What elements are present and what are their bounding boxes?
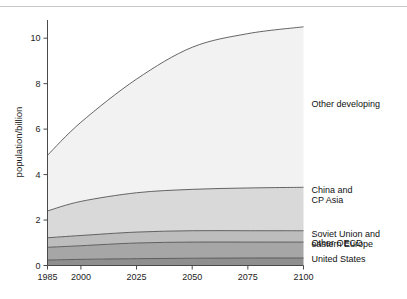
y-tick-label: 8 [35, 79, 40, 89]
stacked-area-chart: 1086420 198520002025205020752100 populat… [0, 0, 407, 299]
x-tick-label: 2100 [293, 272, 313, 282]
x-tick-label: 2075 [238, 272, 258, 282]
chart-page: 1086420 198520002025205020752100 populat… [0, 0, 407, 299]
x-tick-label: 2025 [127, 272, 147, 282]
y-tick-label: 10 [30, 33, 40, 43]
y-tick-label: 6 [35, 124, 40, 134]
chart-legend: Other developingChina andCP AsiaSoviet U… [312, 99, 381, 264]
area-bands [48, 27, 304, 266]
y-axis-title: population/billion [13, 107, 24, 178]
x-tick-label: 2050 [182, 272, 202, 282]
legend-label: CP Asia [312, 195, 344, 205]
area-band [48, 27, 304, 211]
y-tick-label: 4 [35, 170, 40, 180]
x-axis-ticks: 198520002025205020752100 [37, 266, 313, 282]
legend-label: Other OECD [312, 238, 364, 248]
y-tick-label: 2 [35, 215, 40, 225]
y-axis-ticks: 1086420 [30, 33, 47, 270]
legend-label: United States [312, 254, 367, 264]
y-tick-label: 0 [35, 261, 40, 271]
legend-label: Other developing [312, 99, 381, 109]
x-tick-label: 1985 [37, 272, 57, 282]
legend-label: China and [312, 185, 353, 195]
x-tick-label: 2000 [71, 272, 91, 282]
